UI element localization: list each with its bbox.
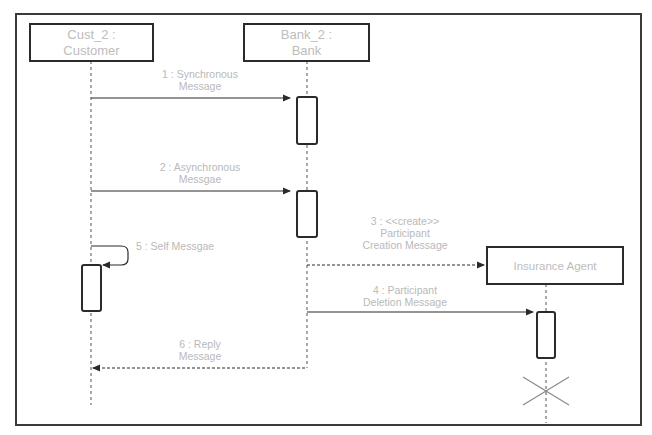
participant-customer[interactable]: Cust_2 : Customer	[29, 23, 154, 62]
activation-customer	[82, 265, 101, 311]
activation-insurance-agent	[537, 312, 555, 358]
participant-customer-line1: Cust_2 :	[67, 27, 115, 43]
message-6-label: 6 : Reply Message	[160, 338, 240, 362]
participant-bank[interactable]: Bank_2 : Bank	[243, 23, 370, 62]
message-2-label: 2 : Asynchronous Messgae	[140, 161, 260, 185]
participant-bank-line2: Bank	[292, 43, 322, 59]
participant-customer-line2: Customer	[63, 43, 119, 59]
participant-bank-line1: Bank_2 :	[281, 27, 332, 43]
participant-insurance-agent-label: Insurance Agent	[513, 258, 596, 274]
message-3-label: 3 : <<create>> Participant Creation Mess…	[345, 215, 465, 251]
message-4-label: 4 : Participant Deletion Message	[345, 284, 465, 308]
participant-insurance-agent[interactable]: Insurance Agent	[486, 246, 624, 285]
sequence-diagram-canvas	[0, 0, 652, 435]
message-5-self-arrow	[91, 246, 128, 265]
message-1-label: 1 : Synchronous Message	[140, 68, 260, 92]
diagram-frame	[16, 14, 641, 425]
activation-bank-2	[297, 191, 317, 237]
activation-bank-1	[297, 97, 317, 144]
message-5-label: 5 : Self Messgae	[136, 240, 214, 252]
